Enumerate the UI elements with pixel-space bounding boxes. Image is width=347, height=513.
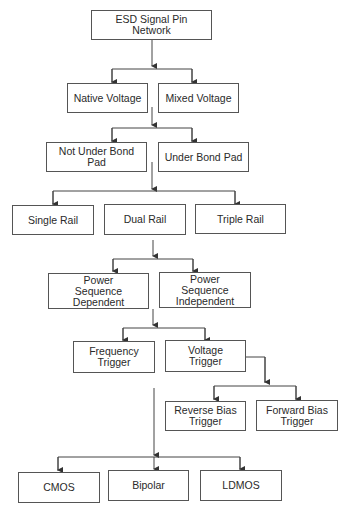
node-native-voltage: Native Voltage: [67, 83, 148, 113]
node-not-under-bond-pad: Not Under Bond Pad: [46, 142, 147, 172]
node-ldmos: LDMOS: [200, 470, 282, 501]
node-single-rail: Single Rail: [12, 205, 94, 235]
node-frequency-trigger: Frequency Trigger: [73, 341, 155, 373]
node-esd-signal-pin-network: ESD Signal Pin Network: [91, 10, 212, 40]
node-cmos: CMOS: [18, 472, 100, 503]
node-under-bond-pad: Under Bond Pad: [158, 142, 249, 172]
node-power-sequence-dependent: Power Sequence Dependent: [48, 273, 149, 309]
node-dual-rail: Dual Rail: [104, 204, 186, 235]
node-voltage-trigger: Voltage Trigger: [165, 340, 246, 372]
node-reverse-bias-trigger: Reverse Bias Trigger: [165, 401, 246, 431]
node-forward-bias-trigger: Forward Bias Trigger: [256, 400, 338, 431]
node-power-sequence-independent: Power Sequence Independent: [159, 272, 251, 308]
node-bipolar: Bipolar: [108, 470, 189, 501]
node-triple-rail: Triple Rail: [195, 204, 286, 234]
node-mixed-voltage: Mixed Voltage: [158, 83, 239, 113]
connector-lines: [0, 0, 347, 513]
